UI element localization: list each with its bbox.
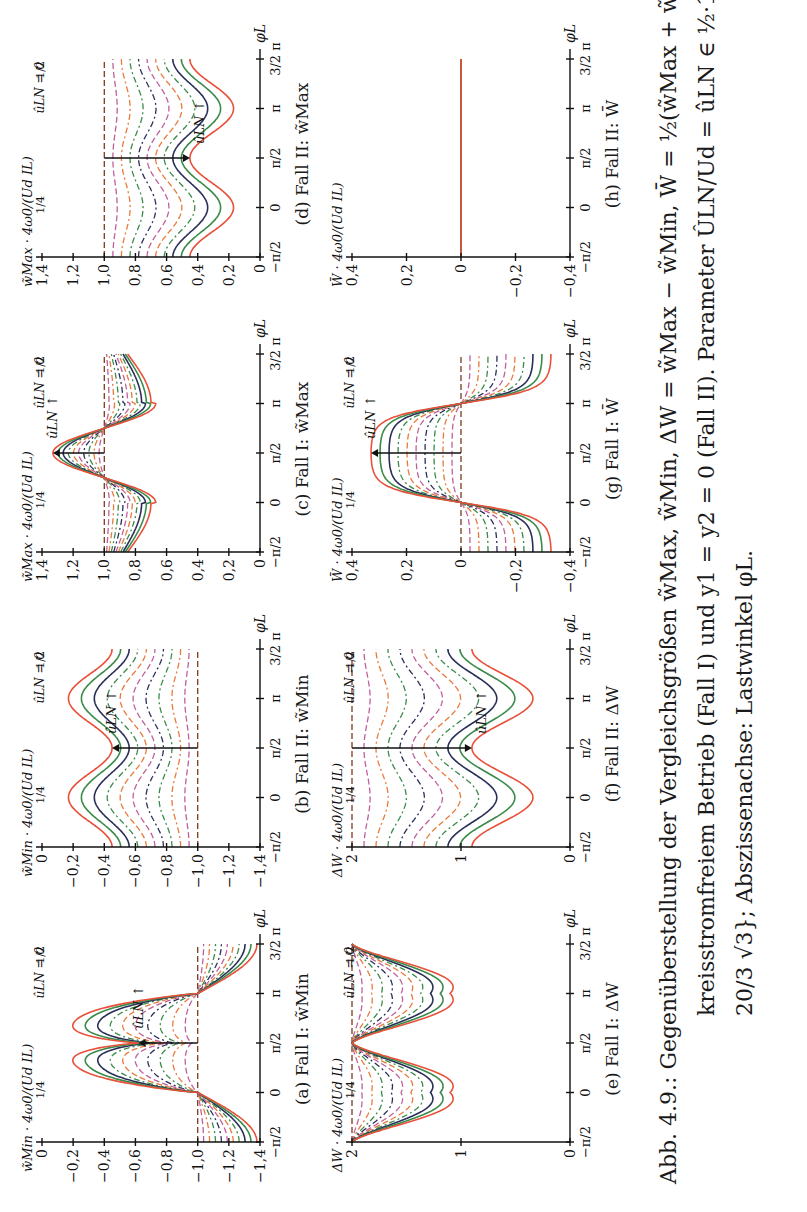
plot-f: −π/20π/2π3/2 πφL210ΔW · 4ω0/(Ud IL)ûLN ↑…: [330, 599, 600, 889]
y-axis-label: w̃Min · 4ω0/(Ud IL): [20, 749, 35, 877]
y-tick-label: −1,4: [252, 854, 268, 888]
x-axis-label: φL: [562, 909, 578, 928]
x-axis-label: φL: [562, 24, 578, 43]
parameter-arrow-label: ûLN ↑: [104, 691, 119, 734]
x-axis-label: φL: [562, 614, 578, 633]
x-tick-label: π/2: [578, 147, 593, 168]
x-axis-label: φL: [252, 24, 268, 43]
x-tick-label: −π/2: [578, 831, 593, 863]
y-axis-label: ΔW · 4ω0/(Ud IL): [330, 1058, 345, 1173]
plot-c: −π/20π/2π3/2 πφL1,41,21,00,80,60,40,20w̃…: [20, 304, 290, 594]
x-tick-label: 0: [268, 1088, 283, 1096]
panel-g-fall1-wmean: −π/20π/2π3/2 πφL0,40,20−0,2−0,4W̄ · 4ω0/…: [330, 304, 630, 594]
y-tick-label: 0,2: [221, 264, 237, 286]
x-tick-label: π: [268, 694, 283, 703]
annotation-half: 1/2: [34, 651, 47, 669]
x-tick-label: 3/2 π: [268, 927, 283, 961]
annotation-half: 1/2: [344, 946, 357, 964]
y-tick-label: −1,4: [252, 1149, 268, 1183]
curve-8: [352, 944, 433, 1142]
y-tick-label: 0: [453, 559, 469, 568]
annotation-quarter: 1/4: [344, 491, 357, 509]
x-tick-label: π/2: [578, 1032, 593, 1053]
caption-line-2: kreisstromfreiem Betrieb (Fall I) und y1…: [688, 14, 726, 1184]
y-tick-label: −0,4: [562, 264, 578, 298]
panel-f-fall2-deltaw: −π/20π/2π3/2 πφL210ΔW · 4ω0/(Ud IL)ûLN ↑…: [330, 599, 630, 889]
axes: [36, 344, 264, 556]
y-tick-label: 1: [453, 1149, 469, 1158]
x-tick-label: 3/2 π: [578, 337, 593, 371]
caption-line-3: 20/3 √3}; Abszissenachse: Lastwinkel φL.: [726, 14, 764, 1184]
y-axis-label: w̃Max · 4ω0/(Ud IL): [20, 156, 35, 287]
x-axis-label: φL: [562, 319, 578, 338]
y-tick-label: 0,8: [127, 559, 143, 581]
y-tick-label: 0: [252, 264, 268, 273]
y-tick-label: −0,2: [65, 854, 81, 888]
y-tick-label: 0: [453, 264, 469, 273]
x-tick-label: π: [268, 399, 283, 408]
annotation-quarter: 1/4: [34, 1081, 47, 1099]
y-tick-label: −1,0: [190, 854, 206, 888]
y-tick-label: 0,4: [344, 264, 360, 286]
x-tick-label: π/2: [268, 737, 283, 758]
axes: [346, 934, 574, 1146]
y-tick-label: −0,2: [508, 559, 524, 593]
parameter-arrow-label: ûLN ↑: [45, 396, 60, 439]
y-tick-label: −0,2: [65, 1149, 81, 1183]
x-tick-label: −π/2: [578, 1126, 593, 1158]
caption-line-1: Abb. 4.9.: Gegenüberstellung der Verglei…: [650, 14, 688, 1184]
plot-e: −π/20π/2π3/2 πφL210ΔW · 4ω0/(Ud IL)ûLN =…: [330, 894, 600, 1184]
y-tick-label: 0: [34, 854, 50, 863]
x-tick-label: π/2: [268, 1032, 283, 1053]
x-tick-label: π: [268, 989, 283, 998]
parameter-arrow-label: ûLN ↑: [131, 986, 146, 1029]
y-tick-label: 1,4: [34, 559, 50, 581]
y-tick-label: 0: [34, 1149, 50, 1158]
figure-grid: −π/20π/2π3/2 πφL0−0,2−0,4−0,6−0,8−1,0−1,…: [20, 9, 640, 1184]
y-tick-label: −0,6: [127, 1149, 143, 1183]
y-tick-label: 0,2: [399, 264, 415, 286]
plot-d: −π/20π/2π3/2 πφL1,41,21,00,80,60,40,20w̃…: [20, 9, 290, 299]
x-tick-label: π/2: [268, 442, 283, 463]
x-tick-label: 0: [578, 498, 593, 506]
y-tick-label: 2: [344, 1149, 360, 1158]
y-tick-label: 0,2: [221, 559, 237, 581]
x-tick-label: 0: [268, 498, 283, 506]
y-axis-label: w̃Min · 4ω0/(Ud IL): [20, 1044, 35, 1172]
x-tick-label: −π/2: [268, 1126, 283, 1158]
panel-a-fall1-wmin: −π/20π/2π3/2 πφL0−0,2−0,4−0,6−0,8−1,0−1,…: [20, 894, 320, 1184]
curve-5: [352, 944, 403, 1142]
x-tick-label: 3/2 π: [268, 42, 283, 76]
subcaption-g: (g) Fall I: W̄: [602, 304, 622, 594]
annotation-half: 1/2: [34, 61, 47, 79]
curves: [352, 944, 453, 1142]
y-tick-label: −0,2: [508, 264, 524, 298]
parameter-arrow-label: ûLN ↑: [363, 396, 378, 439]
y-tick-label: −0,8: [159, 854, 175, 888]
x-tick-label: −π/2: [268, 831, 283, 863]
y-tick-label: −1,2: [221, 1149, 237, 1183]
annotation-half: 1/2: [344, 651, 357, 669]
y-tick-label: 0,4: [344, 559, 360, 581]
annotation-quarter: 1/4: [34, 491, 47, 509]
x-tick-label: 0: [268, 203, 283, 211]
panel-e-fall1-deltaw: −π/20π/2π3/2 πφL210ΔW · 4ω0/(Ud IL)ûLN =…: [330, 894, 630, 1184]
y-tick-label: 0,8: [127, 264, 143, 286]
curve-7: [352, 944, 423, 1142]
plot-a: −π/20π/2π3/2 πφL0−0,2−0,4−0,6−0,8−1,0−1,…: [20, 894, 290, 1184]
panel-b-fall2-wmin: −π/20π/2π3/2 πφL0−0,2−0,4−0,6−0,8−1,0−1,…: [20, 599, 320, 889]
x-tick-label: π/2: [578, 442, 593, 463]
x-tick-label: 0: [578, 793, 593, 801]
x-tick-label: 0: [578, 203, 593, 211]
y-tick-label: −1,0: [190, 1149, 206, 1183]
y-tick-label: 0: [562, 854, 578, 863]
x-tick-label: 3/2 π: [578, 632, 593, 666]
x-axis-label: φL: [252, 614, 268, 633]
figure-caption: Abb. 4.9.: Gegenüberstellung der Verglei…: [650, 14, 764, 1184]
subcaption-e: (e) Fall I: ΔW: [602, 894, 622, 1184]
annotation-quarter: 1/4: [344, 786, 357, 804]
annotation-quarter: 1/4: [344, 1081, 357, 1099]
y-tick-label: 0,6: [159, 264, 175, 286]
y-tick-label: 0,4: [190, 264, 206, 286]
panel-d-fall2-wmax: −π/20π/2π3/2 πφL1,41,21,00,80,60,40,20w̃…: [20, 9, 320, 299]
